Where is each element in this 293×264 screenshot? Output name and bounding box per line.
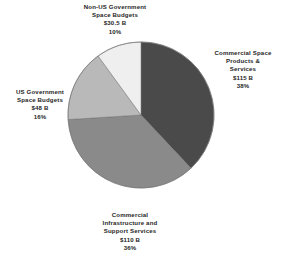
pie-label-percent: 10%	[58, 28, 172, 36]
pie-label-name: Non-US Government Space Budgets	[58, 3, 172, 19]
pie-slices	[68, 42, 214, 188]
pie-label-percent: 16%	[2, 113, 78, 121]
pie-label-percent: 38%	[196, 82, 290, 90]
pie-label-name: Commercial Space Products & Services	[196, 49, 290, 74]
pie-label-commercial-products: Commercial Space Products & Services $11…	[196, 49, 290, 90]
pie-label-non-us-government: Non-US Government Space Budgets $30.5 B …	[58, 3, 172, 36]
pie-chart-figure: Commercial Space Products & Services $11…	[0, 0, 293, 264]
pie-label-value: $48 B	[2, 104, 78, 112]
pie-label-name: US Government Space Budgets	[2, 88, 78, 104]
pie-label-value: $30.5 B	[58, 19, 172, 27]
pie-label-value: $115 B	[196, 74, 290, 82]
pie-label-us-government: US Government Space Budgets $48 B 16%	[2, 88, 78, 121]
pie-label-value: $110 B	[72, 236, 188, 244]
pie-label-name: Commercial Infrastructure and Support Se…	[72, 211, 188, 236]
pie-label-percent: 36%	[72, 244, 188, 252]
pie-label-commercial-infrastructure: Commercial Infrastructure and Support Se…	[72, 211, 188, 252]
